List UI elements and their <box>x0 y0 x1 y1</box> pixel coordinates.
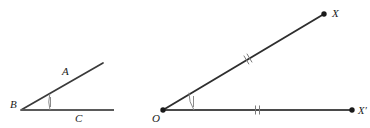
left-figure-group: B A C <box>10 63 114 124</box>
endpoint-dot-X <box>321 11 326 16</box>
label-C: C <box>75 112 83 124</box>
geometry-figure-canvas: B A C O <box>0 0 370 128</box>
right-figure-group: O X X′ <box>152 7 367 124</box>
geometry-diagram: B A C O <box>0 0 370 128</box>
label-O: O <box>152 112 160 124</box>
label-X: X <box>331 7 340 19</box>
endpoint-dot-Xprime <box>349 107 354 112</box>
label-A: A <box>61 65 69 77</box>
label-B: B <box>10 98 17 110</box>
vertex-dot-O <box>160 107 165 112</box>
label-X-prime: X′ <box>357 105 367 116</box>
angle-arc-B-icon <box>49 94 50 110</box>
ray-OX-line <box>163 14 324 110</box>
